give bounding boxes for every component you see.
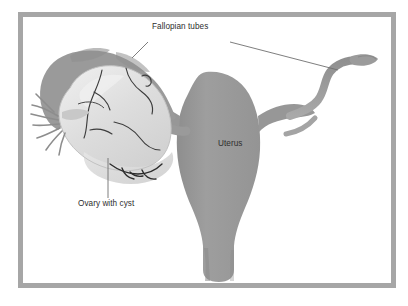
label-uterus: Uterus: [218, 139, 242, 148]
right-fallopian-tube: [286, 54, 378, 134]
anatomy-illustration: [18, 12, 396, 288]
leader-fallopian-left: [132, 42, 148, 58]
illustration-canvas: Copyright © 1989-98 by TechPool Studios,…: [0, 0, 408, 306]
leader-fallopian-right: [230, 42, 338, 70]
label-fallopian-tubes: Fallopian tubes: [152, 22, 208, 31]
label-ovary-with-cyst: Ovary with cyst: [78, 199, 134, 208]
